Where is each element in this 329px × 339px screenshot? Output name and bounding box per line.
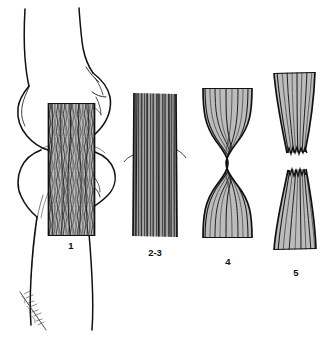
panel-5-label: 5 — [293, 267, 299, 278]
figure-canvas: 1 2-3 — [0, 0, 329, 339]
panel-1-ligament — [48, 103, 95, 236]
ligament-2-3-fiber-fill — [133, 93, 177, 237]
panel-4-label: 4 — [225, 256, 231, 267]
panel-2-3-ligament — [124, 92, 186, 238]
panel-2-3-label: 2-3 — [148, 247, 162, 258]
ligament-2-3-left-edge — [133, 93, 134, 236]
ligament-grades-figure: 1 2-3 — [0, 0, 329, 339]
ligament-1-fiber-fill — [48, 103, 95, 236]
panel-1-label: 1 — [68, 240, 74, 251]
ligament-2-3-right-edge — [176, 94, 177, 237]
